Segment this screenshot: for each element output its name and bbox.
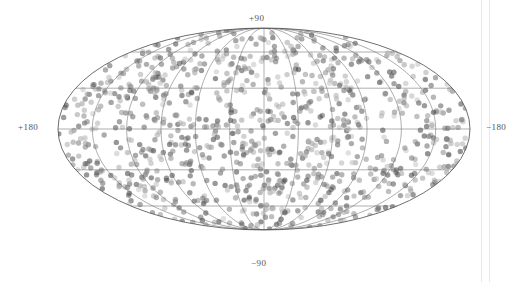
scatter-point — [181, 121, 186, 126]
scatter-point — [169, 180, 174, 185]
scatter-point — [385, 50, 390, 55]
scatter-point — [147, 156, 152, 161]
scatter-point — [144, 62, 149, 67]
scatter-point — [290, 134, 295, 139]
scatter-point — [346, 127, 351, 132]
scatter-point — [433, 75, 438, 80]
scatter-point — [401, 95, 406, 100]
scatter-point — [388, 97, 393, 102]
scatter-point — [288, 157, 293, 162]
scatter-point — [399, 171, 404, 176]
scatter-point — [264, 202, 269, 207]
scatter-point — [273, 59, 278, 64]
scatter-point — [318, 197, 323, 202]
scatter-point — [334, 96, 339, 101]
scatter-point — [177, 61, 182, 66]
scatter-point — [290, 52, 295, 57]
scatter-point — [334, 171, 339, 176]
scatter-point — [409, 64, 414, 69]
scatter-point — [339, 160, 344, 165]
scatter-point — [242, 66, 247, 71]
scatter-point — [277, 80, 282, 85]
scatter-point — [386, 189, 391, 194]
scatter-point — [317, 53, 322, 58]
scatter-point — [168, 156, 173, 161]
scatter-point — [213, 76, 218, 81]
scatter-point — [253, 197, 258, 202]
scatter-point — [316, 96, 321, 101]
scatter-point — [233, 195, 238, 200]
scatter-point — [269, 147, 274, 152]
scatter-point — [442, 126, 447, 131]
scatter-point — [295, 121, 300, 126]
scatter-point — [309, 73, 314, 78]
scatter-point — [151, 75, 156, 80]
scatter-point — [404, 103, 409, 108]
scatter-point — [72, 96, 77, 101]
sky-map-figure: +90 −90 +180 −180 — [0, 0, 520, 282]
scatter-point — [216, 124, 221, 129]
scatter-point — [184, 147, 189, 152]
scatter-point — [290, 197, 295, 202]
scatter-point — [243, 141, 248, 146]
scatter-point — [251, 62, 256, 67]
scatter-point — [204, 143, 209, 148]
scatter-point — [76, 153, 81, 158]
scatter-point — [392, 110, 397, 115]
scatter-point — [269, 214, 274, 219]
scatter-point — [221, 83, 226, 88]
scatter-point — [140, 49, 145, 54]
scatter-point — [459, 117, 464, 122]
scatter-point — [234, 88, 239, 93]
scatter-point — [339, 172, 344, 177]
scatter-point — [187, 190, 192, 195]
scatter-point — [96, 107, 101, 112]
scatter-point — [311, 171, 316, 176]
scatter-point — [332, 81, 337, 86]
scatter-point — [65, 142, 70, 147]
scatter-point — [187, 116, 192, 121]
scatter-point — [319, 150, 324, 155]
scatter-point — [153, 70, 158, 75]
scatter-point — [295, 35, 300, 40]
scatter-point — [409, 93, 414, 98]
scatter-point — [133, 153, 138, 158]
scatter-point — [253, 41, 258, 46]
scatter-point — [313, 180, 318, 185]
scatter-point — [355, 154, 360, 159]
scatter-point — [326, 190, 331, 195]
scatter-point — [186, 143, 191, 148]
scatter-point — [330, 107, 335, 112]
scatter-point — [152, 137, 157, 142]
scatter-point — [101, 132, 106, 137]
scatter-point — [239, 117, 244, 122]
scatter-point — [85, 161, 90, 166]
scatter-point — [137, 202, 142, 207]
scatter-point — [398, 193, 403, 198]
scatter-point — [341, 123, 346, 128]
scatter-point — [413, 139, 418, 144]
scatter-point — [108, 90, 113, 95]
scatter-point — [170, 65, 175, 70]
scatter-point — [85, 91, 90, 96]
scatter-point — [80, 87, 85, 92]
scatter-point — [238, 161, 243, 166]
scatter-point — [424, 124, 429, 129]
scatter-point — [397, 58, 402, 63]
scatter-point — [275, 74, 280, 79]
scatter-point — [425, 113, 430, 118]
scatter-point — [300, 79, 305, 84]
scatter-point — [200, 152, 205, 157]
scatter-point — [152, 118, 157, 123]
scatter-point — [313, 81, 318, 86]
scatter-point — [126, 178, 131, 183]
scatter-point — [295, 208, 300, 213]
scatter-point — [239, 87, 244, 92]
scatter-point — [341, 88, 346, 93]
scatter-point — [423, 77, 428, 82]
scatter-point — [360, 145, 365, 150]
scatter-point — [344, 195, 349, 200]
scatter-point — [117, 119, 122, 124]
scatter-point — [281, 144, 286, 149]
scatter-point — [61, 115, 66, 120]
